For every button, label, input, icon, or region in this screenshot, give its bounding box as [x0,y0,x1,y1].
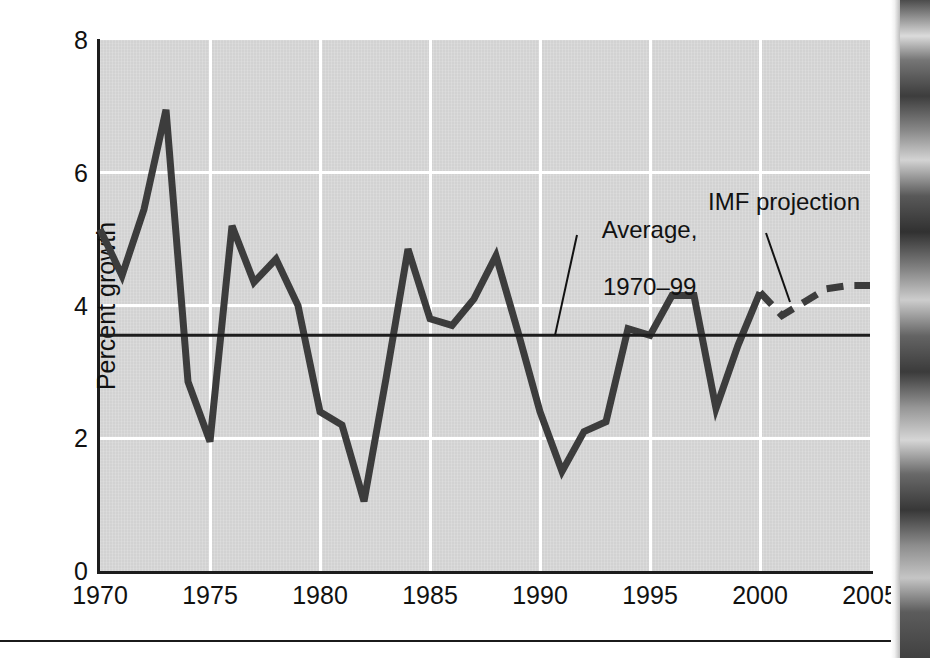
average-annotation-line1: Average, [602,216,698,243]
average-annotation-line2: 1970–99 [603,273,696,300]
x-tick-label: 1985 [402,583,458,608]
projection-leader-line [766,233,790,302]
x-tick-label: 2005 [842,583,898,608]
scan-edge-strip [900,0,930,658]
y-tick-label: 0 [74,559,88,584]
line-chart: 02468 19701975198019851990199520002005 P… [100,40,870,571]
x-axis-line [97,571,873,574]
projection-annotation: IMF projection [708,188,860,216]
x-tick-label: 1970 [72,583,128,608]
series-projection-line [760,286,870,316]
chart-overlay [100,40,870,571]
x-tick-label: 1975 [182,583,238,608]
footer-rule [0,640,900,642]
y-tick-label: 6 [74,160,88,185]
average-annotation: Average, 1970–99 [563,188,697,330]
y-tick-label: 2 [74,426,88,451]
scan-edge-gradient [891,0,900,658]
x-tick-label: 1995 [622,583,678,608]
y-tick-label: 8 [74,28,88,53]
figure-page: 02468 19701975198019851990199520002005 P… [0,0,930,658]
y-tick-label: 4 [74,293,88,318]
x-tick-label: 2000 [732,583,788,608]
x-tick-label: 1980 [292,583,348,608]
x-tick-label: 1990 [512,583,568,608]
